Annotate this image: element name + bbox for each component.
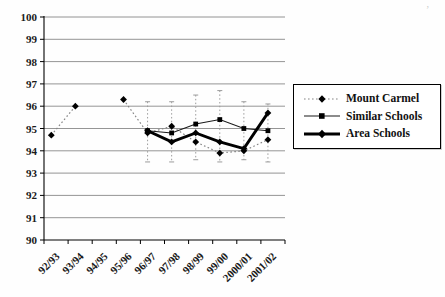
y-tick-label: 97 <box>26 78 38 90</box>
y-tick-label: 96 <box>26 100 38 112</box>
y-tick-label: 93 <box>26 167 38 179</box>
x-tick-label: 92/93 <box>36 250 63 277</box>
legend-row-mount-carmel: Mount Carmel <box>303 93 436 105</box>
y-tick-label: 98 <box>26 56 38 68</box>
marker-square <box>193 122 198 127</box>
y-tick-label: 99 <box>26 33 38 45</box>
x-tick-label: 96/97 <box>132 250 159 277</box>
marker-square <box>169 131 174 136</box>
y-tick-label: 94 <box>26 145 38 157</box>
series-line-dotted <box>51 106 75 135</box>
series-line-solid-thick <box>148 113 268 149</box>
x-tick-label: 93/94 <box>60 250 87 277</box>
x-tick-label: 95/96 <box>108 250 135 277</box>
y-tick-label: 95 <box>26 123 38 135</box>
marker-diamond <box>48 132 55 139</box>
y-tick-label: 90 <box>26 234 38 246</box>
scan-artifact: ’ <box>426 4 429 15</box>
marker-square <box>241 126 246 131</box>
legend-label-similar-schools: Similar Schools <box>346 111 422 123</box>
marker-diamond <box>120 96 127 103</box>
marker-diamond <box>192 138 199 145</box>
legend-label-mount-carmel: Mount Carmel <box>346 93 419 105</box>
x-tick-label: 94/95 <box>84 250 111 277</box>
y-tick-label: 92 <box>26 189 38 201</box>
thick-line-diamond-marker-icon <box>303 129 341 139</box>
legend-row-area-schools: Area Schools <box>303 128 436 140</box>
solid-line-square-marker-icon <box>303 111 341 121</box>
marker-square <box>266 128 271 133</box>
marker-square <box>217 117 222 122</box>
x-tick-label: 98/99 <box>180 250 207 277</box>
series-line-solid-thin <box>148 120 268 133</box>
legend-label-area-schools: Area Schools <box>346 128 410 140</box>
marker-diamond <box>265 136 272 143</box>
y-tick-label: 91 <box>26 212 37 224</box>
chart-legend: Mount Carmel Similar Schools Area School… <box>293 84 441 149</box>
marker-diamond <box>72 103 79 110</box>
dotted-line-diamond-marker-icon <box>303 94 341 104</box>
legend-row-similar-schools: Similar Schools <box>303 111 436 123</box>
x-tick-label: 97/98 <box>156 250 183 277</box>
attendance-chart-figure: 9091929394959697989910092/9393/9494/9595… <box>0 0 445 297</box>
y-tick-label: 100 <box>21 11 38 23</box>
